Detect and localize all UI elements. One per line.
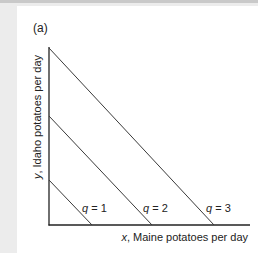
label-q1: q = 1 <box>82 202 107 214</box>
x-axis-label: x, Maine potatoes per day <box>121 231 248 243</box>
label-q3: q = 3 <box>206 202 231 214</box>
isoquant-q3 <box>49 48 214 225</box>
y-axis-label: y, Idaho potatoes per day <box>31 55 43 179</box>
label-q2: q = 2 <box>143 202 168 214</box>
